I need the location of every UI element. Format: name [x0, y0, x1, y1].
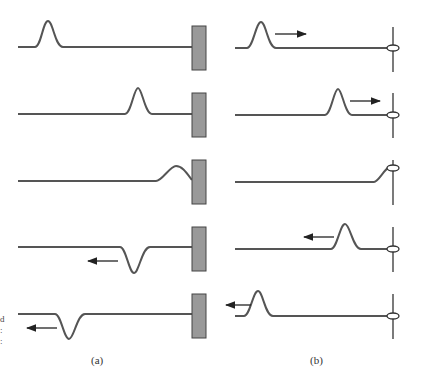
poles — [387, 27, 399, 339]
string-a2 — [18, 88, 192, 114]
ring-5 — [387, 313, 399, 319]
edge-text-2: : — [0, 326, 6, 335]
ring-1 — [387, 45, 399, 51]
panel-a-label: (a) — [91, 354, 103, 366]
arrows-b — [226, 34, 380, 305]
wall-5 — [192, 294, 206, 338]
wall-1 — [192, 26, 206, 70]
panel-b-label: (b) — [310, 354, 323, 366]
edge-text-3: : — [0, 337, 6, 346]
wall-4 — [192, 227, 206, 271]
string-b1 — [235, 22, 388, 48]
string-a4 — [18, 247, 192, 273]
arrows-a — [27, 261, 118, 328]
panel-b — [235, 22, 388, 316]
wall-3 — [192, 160, 206, 204]
string-b2 — [235, 89, 388, 115]
walls — [192, 26, 206, 338]
ring-3 — [387, 165, 399, 171]
pulse-reflection-diagram — [0, 0, 422, 387]
string-b3 — [235, 168, 388, 182]
ring-4 — [387, 246, 399, 252]
string-a5 — [18, 314, 192, 339]
panel-a — [18, 21, 192, 339]
string-a3 — [18, 166, 192, 181]
string-b5 — [235, 291, 388, 316]
string-a1 — [18, 21, 192, 47]
edge-text-1: d — [0, 315, 6, 324]
wall-2 — [192, 93, 206, 137]
ring-2 — [387, 112, 399, 118]
